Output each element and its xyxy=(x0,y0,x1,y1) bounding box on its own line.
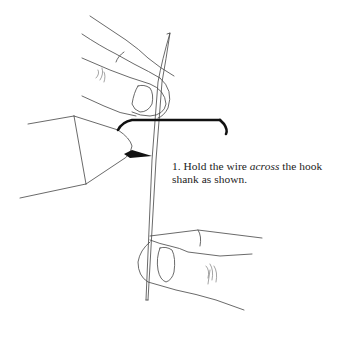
wire xyxy=(146,33,170,300)
vise-jaw xyxy=(20,116,132,198)
caption-text-before: Hold the wire xyxy=(184,160,247,172)
caption: 1. Hold the wire across the hook shank a… xyxy=(172,160,350,186)
hook xyxy=(118,120,227,158)
bottom-hand xyxy=(138,230,262,310)
caption-emphasis: across xyxy=(250,160,280,172)
step-number: 1. xyxy=(172,160,181,172)
